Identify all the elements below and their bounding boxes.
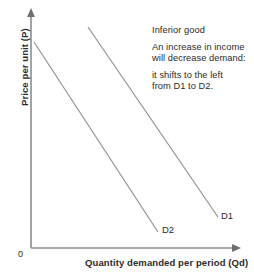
- annotation-line-5: from D1 to D2.: [152, 81, 252, 91]
- annotation-block: Inferior good An increase in income will…: [152, 25, 252, 91]
- annotation-line-2: An increase in income: [152, 42, 252, 52]
- y-axis-title: Price per unit (P): [20, 28, 30, 106]
- demand-curve-d2: [34, 42, 158, 232]
- demand-curve-diagram: 0 Price per unit (P) Quantity demanded p…: [0, 0, 254, 277]
- x-axis-title: Quantity demanded per period (Qd): [85, 258, 248, 268]
- x-axis-arrowhead-icon: [232, 244, 241, 252]
- curve-label-d1: D1: [221, 211, 233, 221]
- y-axis-arrowhead-icon: [27, 8, 35, 17]
- annotation-line-3: will decrease demand:: [152, 53, 252, 63]
- annotation-line-1: Inferior good: [152, 25, 252, 35]
- annotation-line-4: it shifts to the left: [152, 70, 252, 80]
- origin-label: 0: [18, 250, 23, 259]
- curve-label-d2: D2: [162, 225, 174, 235]
